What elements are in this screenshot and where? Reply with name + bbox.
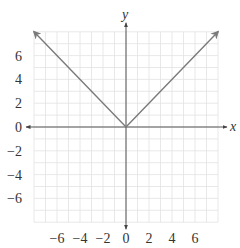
y-axis-label: y (120, 7, 129, 22)
x-axis-label: x (229, 119, 237, 134)
x-tick-label: 2 (146, 231, 153, 246)
y-tick-label: 2 (15, 96, 22, 111)
x-tick-label: −4 (73, 231, 88, 246)
x-tick-label: −6 (50, 231, 65, 246)
y-tick-label: 0 (15, 120, 22, 135)
y-tick-label: −6 (7, 191, 22, 206)
y-tick-label: 6 (15, 49, 22, 64)
x-tick-label: 6 (192, 231, 199, 246)
y-tick-label: −4 (7, 168, 22, 183)
graph-plot: −6−4−202466420−2−4−6xy (0, 0, 240, 248)
y-tick-label: 4 (15, 72, 22, 87)
x-tick-label: 4 (169, 231, 176, 246)
x-tick-label: 0 (123, 231, 130, 246)
x-tick-label: −2 (96, 231, 111, 246)
y-tick-label: −2 (7, 144, 22, 159)
